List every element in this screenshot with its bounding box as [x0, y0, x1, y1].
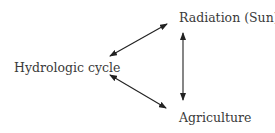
node-hydrologic-cycle: Hydrologic cycle — [14, 62, 120, 75]
node-radiation-sun: Radiation (Sun) — [179, 12, 275, 25]
arrow-hydrologic-agriculture — [110, 75, 166, 108]
arrow-hydrologic-radiation — [110, 24, 167, 56]
interaction-diagram: Hydrologic cycle Radiation (Sun) Agricul… — [0, 0, 275, 133]
node-agriculture: Agriculture — [179, 112, 252, 125]
